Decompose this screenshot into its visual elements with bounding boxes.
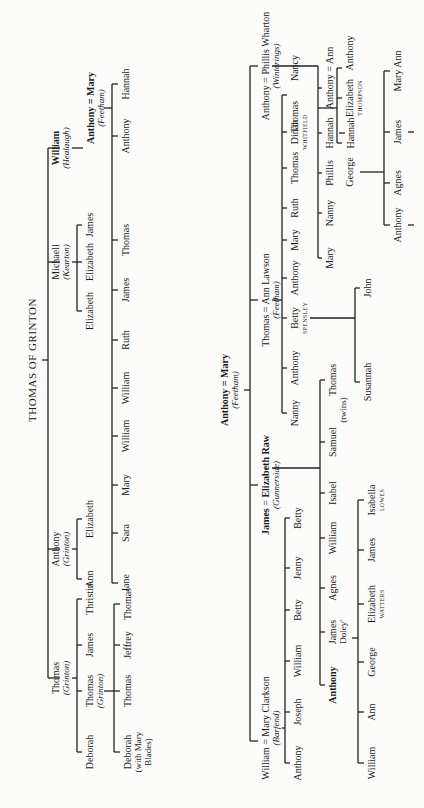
surname: THOMPSON — [355, 79, 365, 117]
person: Ruth — [121, 330, 131, 349]
name: Anthony — [260, 85, 271, 120]
marriage-sign: = — [85, 98, 96, 104]
name: Anthony — [50, 532, 61, 567]
name: Betty — [289, 307, 300, 329]
name: Anthony — [85, 107, 96, 144]
name: Anthony — [324, 74, 335, 109]
couple-anthony-phillis-wharton: Anthony = Phillis Wharton(Winterings) — [261, 12, 281, 121]
place: (Feetham) — [271, 253, 281, 347]
marriage-sign: = — [219, 380, 230, 386]
person-anthony-grinton: Anthony(Grinton) — [51, 532, 71, 567]
person: Nanny — [325, 200, 335, 227]
tree1-title: THOMAS OF GRINTON — [26, 298, 38, 422]
person: James — [85, 213, 95, 237]
name: James — [260, 508, 271, 535]
genealogy-page: THOMAS OF GRINTON Thomas(Grinton) Anthon… — [0, 0, 424, 808]
surname: WHITFIELD — [300, 114, 310, 149]
person: Jenny — [293, 556, 303, 579]
person: IsabellaLOWES — [367, 484, 387, 515]
person-michaell-kearton: Michaell(Kearton) — [51, 244, 71, 280]
couple-anthony-mary: Anthony = Mary(Feetham) — [86, 72, 106, 144]
person: Jeffrey — [123, 631, 133, 659]
person: Mary — [290, 229, 300, 251]
name: Elizabeth — [366, 585, 377, 623]
person: ElizabethWATTERS — [367, 585, 387, 623]
person: Elizabeth — [85, 500, 95, 538]
name: Anthony — [219, 389, 230, 426]
person: Ann — [85, 570, 95, 587]
person: William — [121, 372, 131, 404]
person: BettySPENSLEY — [290, 302, 310, 334]
name: Deborah — [122, 735, 133, 769]
person: James — [121, 278, 131, 302]
surname: LOWES — [377, 484, 387, 515]
person: Susannah — [363, 363, 373, 401]
place: (Feetham) — [230, 354, 240, 426]
person: Mary — [325, 247, 335, 269]
person: JamesDoley' — [328, 620, 348, 644]
person: Anthony — [328, 666, 338, 703]
person: Nanny — [290, 400, 300, 427]
person: Hannah — [346, 117, 356, 148]
nickname: Doley' — [338, 620, 348, 644]
person: Elizabeth — [85, 243, 95, 281]
person: William — [367, 747, 377, 779]
person: Thomas — [290, 101, 300, 133]
person-thomas-grinton: Thomas(Grinton) — [51, 661, 71, 696]
name: William — [50, 131, 61, 165]
place: (Gunnerside) — [271, 435, 281, 535]
person: Mary Ann — [393, 51, 403, 92]
person: Deborah(with Mary Blades) — [123, 730, 153, 774]
person: Joseph — [293, 698, 303, 725]
place: (Healaugh) — [61, 127, 71, 169]
name: Isabella — [366, 484, 377, 515]
person: Elizabeth — [85, 292, 95, 330]
spouse: Phillis Wharton — [260, 12, 271, 75]
person: Samuel — [328, 427, 338, 457]
person: Jane — [121, 574, 131, 592]
person: George — [345, 157, 355, 186]
person: Isabel — [328, 481, 338, 505]
person: Thomas — [121, 224, 131, 256]
couple-anthony-ann: Anthony = Ann — [325, 47, 335, 109]
couple-james-elizabeth-raw: James = Elizabeth Raw(Gunnerside) — [261, 435, 281, 535]
person: Hannah — [121, 68, 131, 99]
person: William — [328, 522, 338, 554]
name: Michaell — [50, 244, 61, 280]
person: Thomas — [123, 675, 133, 707]
spouse: Elizabeth Raw — [260, 435, 271, 498]
person: James — [85, 633, 95, 657]
person: Agnes — [393, 170, 403, 196]
person: Hannah — [325, 117, 335, 148]
place: (Grinton) — [95, 674, 105, 709]
couple-william-mary-clarkson: William = Mary Clarkson(Barfend) — [261, 676, 281, 779]
person: John — [363, 279, 373, 298]
name: Elizabeth — [344, 79, 355, 117]
person: Anthony — [290, 261, 300, 296]
person: Thristin — [85, 583, 95, 615]
person: Anthony — [345, 36, 355, 71]
surname: WATTERS — [377, 585, 387, 623]
person: Deborah — [85, 735, 95, 769]
person: Thomas(Grinton) — [85, 674, 105, 709]
note: (with Mary Blades) — [133, 730, 153, 774]
couple-anthony-mary-root: Anthony = Mary(Feetham) — [220, 354, 240, 426]
name: Thomas — [84, 675, 95, 707]
name: William — [260, 747, 271, 779]
person: Phillis — [325, 160, 335, 186]
person: Ruth — [290, 198, 300, 217]
person: Ann — [367, 703, 377, 720]
person: Thomas — [290, 152, 300, 184]
person: Thomas(twins) — [328, 364, 348, 396]
person: William — [293, 645, 303, 677]
name: Thomas — [327, 364, 338, 396]
twins-note: (twins) — [338, 364, 348, 456]
name: Thomas — [260, 315, 271, 347]
spouse: Mary — [219, 354, 230, 378]
person: Betty — [293, 599, 303, 621]
name: James — [327, 620, 338, 644]
person: ElizabethTHOMPSON — [345, 79, 365, 117]
spouse: Ann — [324, 47, 335, 64]
spouse: Mary Clarkson — [260, 676, 271, 736]
person-william-healaugh: William(Healaugh) — [51, 127, 71, 169]
